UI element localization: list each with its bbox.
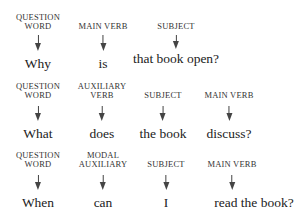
label-line: MAIN VERB — [78, 22, 127, 31]
row1-subject: SUBJECT that book open? — [133, 22, 219, 66]
label-line: VERB — [90, 91, 113, 100]
row2-main-verb: MAIN VERB discuss? — [204, 91, 253, 141]
sentence-word: When — [22, 195, 54, 210]
row3-question-word: QUESTION WORD When — [16, 151, 60, 210]
down-arrow-icon — [98, 35, 108, 51]
label-line: MAIN VERB — [204, 91, 253, 100]
down-arrow-icon — [158, 106, 168, 121]
label-line: SUBJECT — [157, 22, 194, 31]
sentence-word: can — [94, 195, 113, 210]
label-line: WORD — [25, 22, 52, 31]
label-line: AUXILIARY — [79, 160, 128, 169]
label-line: WORD — [25, 160, 52, 169]
row3-main-verb: MAIN VERB read the book? — [192, 160, 271, 210]
row3-modal-auxiliary: MODAL AUXILIARY can — [79, 151, 128, 210]
down-arrow-icon — [171, 35, 181, 49]
label-line: WORD — [25, 91, 52, 100]
sentence-word: I — [164, 195, 169, 210]
row2-question-word: QUESTION WORD What — [16, 82, 60, 141]
sentence-word: Why — [25, 56, 51, 71]
row2-auxiliary-verb: AUXILIARY VERB does — [78, 82, 127, 141]
sentence-word: that book open? — [133, 51, 219, 66]
down-arrow-icon — [161, 175, 171, 190]
label-line: MAIN VERB — [207, 160, 256, 169]
label-line: SUBJECT — [144, 91, 181, 100]
down-arrow-icon — [224, 106, 234, 121]
down-arrow-icon — [98, 175, 108, 190]
down-arrow-icon — [97, 106, 107, 121]
row3-subject: SUBJECT I — [147, 160, 184, 210]
down-arrow-icon — [33, 175, 43, 190]
sentence-word: does — [90, 126, 115, 141]
row1-question-word: QUESTION WORD Why — [16, 13, 60, 71]
row1-main-verb: MAIN VERB is — [78, 22, 127, 71]
sentence-word: the book — [140, 126, 187, 141]
row2-subject: SUBJECT the book — [140, 91, 187, 141]
label-line: SUBJECT — [147, 160, 184, 169]
sentence-word: discuss? — [206, 126, 251, 141]
sentence-word: is — [98, 56, 107, 71]
sentence-word: What — [23, 126, 52, 141]
sentence-word: read the book? — [214, 195, 293, 210]
down-arrow-icon — [33, 106, 43, 121]
down-arrow-icon — [33, 35, 43, 51]
down-arrow-icon — [227, 175, 237, 190]
